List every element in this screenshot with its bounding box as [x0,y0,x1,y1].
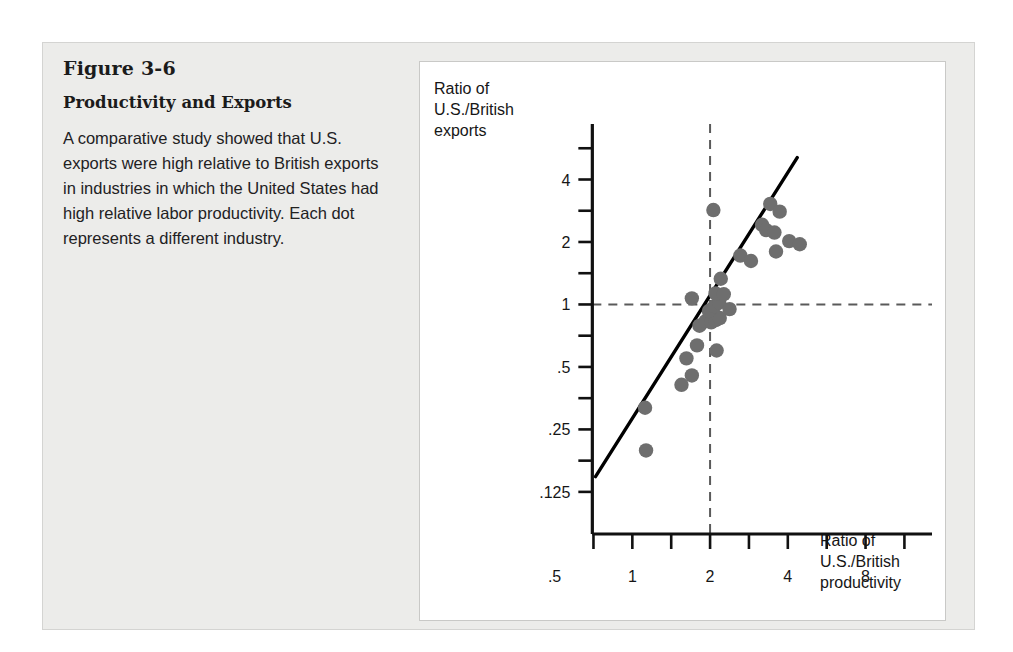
y-tick-label-5: 4 [561,172,570,189]
data-point-18 [717,287,731,301]
data-point-28 [769,244,783,258]
data-point-1 [638,401,652,415]
x-tick-label-0: .5 [548,568,561,585]
figure-panel: Figure 3-6 Productivity and Exports A co… [42,42,975,630]
reference-lines [592,124,932,534]
figure-number: Figure 3-6 [63,57,403,79]
axes [578,124,932,549]
y-axis-title: Ratio of U.S./British exports [434,80,514,139]
caption-block: Figure 3-6 Productivity and Exports A co… [63,57,403,251]
data-point-5 [690,338,704,352]
data-point-22 [744,254,758,268]
data-point-30 [793,237,807,251]
y-tick-label-4: 2 [561,234,570,251]
y-tick-label-2: .5 [557,359,570,376]
x-axis-title-line-2: U.S./British [820,553,900,570]
chart-card: Ratio of U.S./British exports Ratio of U… [419,61,946,621]
y-axis-title-line-3: exports [434,122,486,139]
y-axis-title-line-1: Ratio of [434,80,490,97]
x-tick-label-3: 4 [783,568,792,585]
x-tick-label-1: 1 [628,568,637,585]
data-point-0 [639,443,653,457]
figure-title: Productivity and Exports [63,93,403,112]
data-point-27 [772,204,786,218]
data-point-6 [709,343,723,357]
scatter-plot: Ratio of U.S./British exports Ratio of U… [420,62,947,622]
x-tick-label-2: 2 [706,568,715,585]
data-point-19 [714,272,728,286]
data-point-3 [685,368,699,382]
tick-labels: .125.25.5124.51248 [539,172,870,585]
data-points [638,197,807,458]
data-point-16 [685,291,699,305]
data-point-26 [767,225,781,239]
y-tick-label-1: .25 [548,421,570,438]
data-point-20 [706,203,720,217]
figure-description: A comparative study showed that U.S. exp… [63,126,379,251]
y-axis-title-line-2: U.S./British [434,101,514,118]
y-tick-label-0: .125 [539,484,570,501]
data-point-15 [722,302,736,316]
x-tick-label-4: 8 [861,568,870,585]
data-point-4 [679,351,693,365]
y-tick-label-3: 1 [561,296,570,313]
